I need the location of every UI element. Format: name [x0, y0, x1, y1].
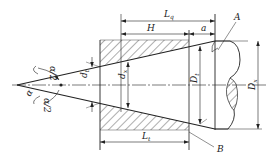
- label-a: a: [201, 23, 206, 33]
- label-Lq: Lq: [163, 9, 174, 21]
- diagram-canvas: Lq H a A Lt B dt dx Dt Dx α/2 α/2: [0, 0, 270, 158]
- label-H: H: [146, 23, 155, 33]
- dim-dt: [86, 57, 100, 112]
- label-alpha-half-top: α/2: [48, 66, 58, 81]
- label-Dx: Dx: [247, 79, 258, 91]
- Dt-leader: [200, 119, 207, 124]
- vertex-point: [59, 83, 62, 86]
- label-alpha-half-bottom: α/2: [42, 98, 52, 113]
- label-alpha: α: [23, 88, 35, 98]
- label-Dt: Dt: [189, 73, 200, 84]
- bore-wall-upper: [100, 40, 189, 66]
- leader-B: [189, 132, 214, 147]
- bore-wall-lower: [100, 104, 189, 130]
- taper-diagram: Lq H a A Lt B dt dx Dt Dx α/2 α/2: [0, 0, 270, 158]
- label-dx: dx: [117, 69, 128, 79]
- label-Lt: Lt: [141, 131, 151, 142]
- leader-A: [218, 22, 236, 50]
- label-B: B: [216, 144, 224, 154]
- label-A: A: [233, 12, 241, 22]
